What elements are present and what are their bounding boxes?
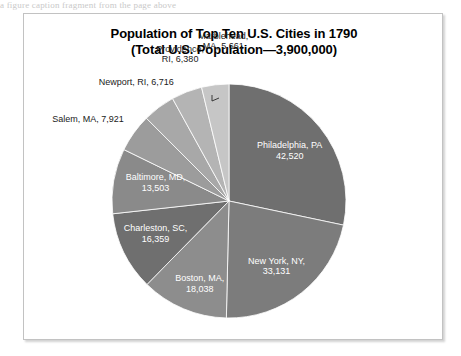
pie-slice-label: Baltimore, MD,13,503 — [126, 172, 186, 193]
pie-slice-label: Marblehead,MA, 5,661 — [198, 31, 248, 52]
pie-slice-label-name: Providence, — [156, 44, 204, 55]
figure-frame: Population of Top Ten U.S. Cities in 179… — [23, 13, 443, 340]
cropped-text-above-figure: a figure caption fragment from the page … — [0, 0, 461, 11]
pie-chart: Philadelphia, PA42,520New York, NY,33,13… — [24, 14, 444, 341]
pie-slice-label-value: 33,131 — [248, 266, 305, 277]
pie-slice-group — [112, 84, 346, 318]
pie-slice-label: Salem, MA, 7,921 — [52, 114, 124, 125]
pie-slice-label-name: Boston, MA, — [175, 273, 224, 284]
pie-slice-label: Boston, MA,18,038 — [175, 273, 224, 294]
pie-slice-label-value: MA, 5,661 — [198, 41, 248, 52]
pie-slice-label-value: 16,359 — [124, 234, 188, 245]
pie-slice-label-name: Salem, MA, 7,921 — [52, 114, 124, 125]
pie-slice-label: Newport, RI, 6,716 — [99, 77, 174, 88]
pie-slice-label: New York, NY,33,131 — [248, 256, 305, 277]
pie-slice-label-name: New York, NY, — [248, 256, 305, 267]
pie-slice-label-name: Newport, RI, 6,716 — [99, 77, 174, 88]
pie-slice-label: Providence,RI, 6,380 — [156, 44, 204, 65]
pie-slice-label: Charleston, SC,16,359 — [124, 223, 188, 244]
pie-slice-label-value: RI, 6,380 — [156, 54, 204, 65]
pie-slice-label-name: Marblehead, — [198, 31, 248, 42]
pie-slice-label-name: Charleston, SC, — [124, 223, 188, 234]
pie-slice-label-name: Baltimore, MD, — [126, 172, 186, 183]
pie-slice-label-value: 42,520 — [257, 151, 322, 162]
pie-slice-label-name: Philadelphia, PA — [257, 140, 322, 151]
pie-slice-label: Philadelphia, PA42,520 — [257, 140, 322, 161]
pie-slice-label-value: 13,503 — [126, 183, 186, 194]
pie-chart-svg — [24, 14, 444, 341]
pie-slice-label-value: 18,038 — [175, 284, 224, 295]
